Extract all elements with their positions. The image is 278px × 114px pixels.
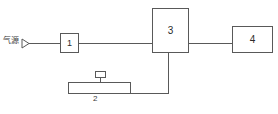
component-3-label: 3 xyxy=(168,26,174,36)
component-1[interactable]: 1 xyxy=(60,33,79,53)
arrow-right-marker xyxy=(22,39,29,48)
component-4[interactable]: 4 xyxy=(232,26,273,53)
component-2-label: 2 xyxy=(93,95,97,103)
gas-source-label: 气源 xyxy=(3,37,18,45)
component-2[interactable] xyxy=(68,82,131,94)
connection-lines-layer xyxy=(0,0,278,114)
component-2-cap xyxy=(95,71,106,78)
component-4-label: 4 xyxy=(250,35,256,45)
component-1-label: 1 xyxy=(67,39,72,48)
schematic-diagram: 气源 1 3 4 2 xyxy=(0,0,278,114)
component-3[interactable]: 3 xyxy=(152,8,189,53)
